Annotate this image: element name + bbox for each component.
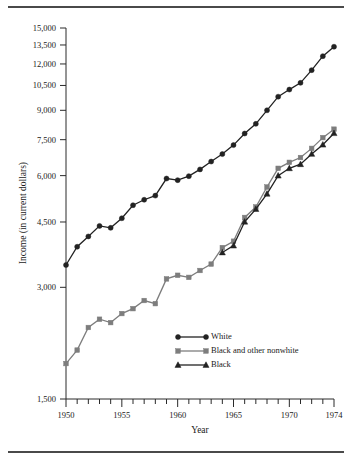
data-point (309, 146, 314, 151)
data-point (209, 262, 214, 267)
series-black-and-other-nonwhite (64, 127, 337, 366)
data-point (142, 197, 147, 202)
x-axis: 195019551960196519701974 (58, 399, 344, 420)
series-black (219, 130, 337, 255)
data-point (175, 178, 180, 183)
x-tick-label: 1974 (326, 410, 344, 420)
y-tick-label: 10,500 (33, 80, 56, 90)
data-point (242, 131, 247, 136)
y-axis: 1,5003,0004,5006,0007,5009,00010,50012,0… (33, 23, 66, 404)
data-point (231, 143, 236, 148)
data-point (198, 268, 203, 273)
legend-item-black-and-other-nonwhite: Black and other nonwhite (176, 345, 299, 355)
data-point (275, 172, 281, 178)
x-tick-group: 195019551960196519701974 (58, 399, 344, 420)
chart-legend: WhiteBlack and other nonwhiteBlack (175, 331, 299, 369)
y-tick-label: 7,500 (37, 135, 56, 145)
data-point (253, 121, 258, 126)
x-axis-title: Year (191, 425, 209, 435)
data-point (131, 306, 136, 311)
series-white (64, 44, 337, 267)
data-point (86, 325, 91, 330)
data-point (153, 193, 158, 198)
data-point (64, 263, 69, 268)
y-tick-label: 4,500 (37, 217, 56, 227)
line-chart: 1,5003,0004,5006,0007,5009,00010,50012,0… (0, 0, 352, 458)
data-point (186, 174, 191, 179)
data-point (298, 155, 303, 160)
legend-marker (176, 335, 181, 340)
x-tick-label: 1955 (113, 410, 130, 420)
y-tick-label: 9,000 (37, 105, 56, 115)
y-tick-label: 15,000 (33, 23, 56, 33)
series-line (222, 133, 334, 252)
data-point (287, 87, 292, 92)
data-point (265, 108, 270, 113)
data-point (164, 277, 169, 282)
data-point (97, 223, 102, 228)
data-point (86, 234, 91, 239)
legend-marker (204, 349, 209, 354)
data-point (164, 176, 169, 181)
data-point (75, 348, 80, 353)
data-point (198, 167, 203, 172)
y-tick-label: 1,500 (37, 394, 56, 404)
data-point (64, 361, 69, 366)
x-tick-label: 1965 (225, 410, 242, 420)
data-point (298, 80, 303, 85)
data-point (287, 160, 292, 165)
y-tick-label: 6,000 (37, 171, 56, 181)
legend-label: Black (211, 359, 232, 369)
data-point (75, 244, 80, 249)
y-tick-label: 12,000 (33, 59, 56, 69)
data-point (265, 185, 270, 190)
y-tick-label: 13,500 (33, 40, 56, 50)
data-point (120, 311, 125, 316)
series-group (64, 44, 338, 366)
data-point (119, 216, 124, 221)
legend-label: Black and other nonwhite (211, 345, 299, 355)
data-point (108, 225, 113, 230)
y-tick-group: 1,5003,0004,5006,0007,5009,00010,50012,0… (33, 23, 66, 404)
data-point (321, 135, 326, 140)
series-line (66, 129, 334, 363)
figure-container: 1,5003,0004,5006,0007,5009,00010,50012,0… (0, 0, 352, 458)
x-tick-label: 1970 (281, 410, 298, 420)
data-point (142, 298, 147, 303)
series-line (66, 47, 334, 265)
data-point (153, 301, 158, 306)
data-point (131, 203, 136, 208)
data-point (309, 68, 314, 73)
legend-item-white: White (176, 331, 232, 341)
data-point (320, 54, 325, 59)
legend-item-black: Black (175, 359, 232, 369)
data-point (108, 320, 113, 325)
y-tick-label: 3,000 (37, 282, 56, 292)
legend-label: White (211, 331, 232, 341)
data-point (276, 166, 281, 171)
y-axis-title: Income (in current dollars) (18, 162, 29, 264)
x-tick-label: 1960 (169, 410, 186, 420)
legend-marker (204, 335, 209, 340)
legend-marker (176, 349, 181, 354)
data-point (175, 273, 180, 278)
data-point (209, 159, 214, 164)
data-point (97, 317, 102, 322)
data-point (220, 152, 225, 157)
x-tick-label: 1950 (58, 410, 75, 420)
data-point (276, 94, 281, 99)
data-point (187, 275, 192, 280)
data-point (332, 44, 337, 49)
